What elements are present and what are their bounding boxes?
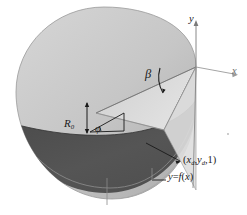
figure-drawing	[0, 0, 247, 215]
r-zero-symbol: R	[64, 117, 71, 129]
scan-artifact-dot	[227, 133, 229, 135]
label-curve-equation: y=f(x)	[168, 172, 193, 183]
curve-paren-close: )	[190, 171, 194, 182]
label-phi: φ	[95, 124, 101, 135]
y-axis-arrowhead	[194, 20, 199, 26]
label-r-zero: R0	[64, 118, 74, 131]
x-axis-line	[196, 67, 234, 74]
beta-glyph: β	[145, 67, 151, 81]
phi-glyph: φ	[95, 123, 101, 134]
axis-x-glyph: x	[232, 65, 237, 76]
label-axis-y: y	[189, 14, 194, 25]
label-axis-x: x	[232, 66, 237, 77]
point-paren-close: )	[213, 154, 217, 165]
axis-y-glyph: y	[189, 13, 194, 24]
label-point-coordinates: (xd,yd,1)	[183, 155, 216, 166]
figure-container: β R0 φ y x (xd,yd,1) y=f(x)	[0, 0, 247, 215]
label-beta: β	[145, 68, 151, 81]
r-zero-subscript: 0	[71, 123, 74, 130]
